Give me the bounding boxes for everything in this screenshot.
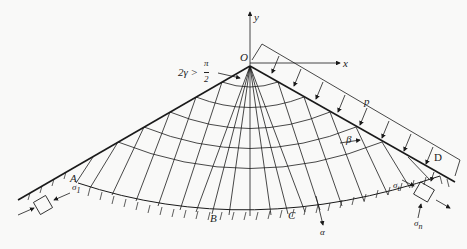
angle-denominator: 2 — [204, 72, 209, 84]
label-y-axis: y — [254, 12, 259, 23]
label-beta: β — [346, 134, 351, 145]
left-mesh — [76, 82, 222, 210]
label-origin: O — [240, 52, 248, 63]
slip-line-diagram: O x y 2γ > π 2 p β α A B C D σ1 σt σn — [0, 0, 467, 249]
surface-OA — [18, 66, 250, 200]
label-point-C: C — [288, 210, 295, 221]
boundary-ABCD — [78, 176, 440, 210]
right-stress-element — [402, 172, 450, 218]
label-point-B: B — [210, 213, 217, 224]
angle-numerator: π — [204, 58, 209, 68]
label-alpha: α — [320, 228, 325, 237]
label-point-D: D — [434, 152, 442, 163]
label-sigma-n: σn — [414, 219, 422, 231]
right-mesh — [278, 82, 430, 210]
label-load-p: p — [364, 96, 370, 107]
load-arrows — [272, 56, 433, 164]
surface-OD — [250, 66, 455, 182]
label-sigma-1: σ1 — [72, 183, 80, 195]
alpha-arrow — [316, 196, 323, 225]
label-angle: 2γ > — [178, 67, 198, 78]
diagram-drawing — [0, 0, 467, 249]
label-sigma-t: σt — [393, 181, 400, 193]
hatching — [28, 172, 449, 220]
label-x-axis: x — [343, 58, 348, 69]
